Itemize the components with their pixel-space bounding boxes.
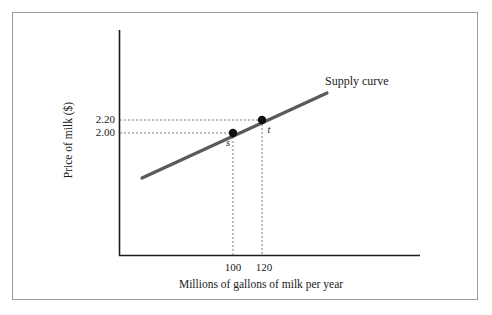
x-tick-label-120: 120 — [256, 261, 273, 273]
data-point-s — [229, 129, 237, 137]
x-tick-label-100: 100 — [225, 261, 242, 273]
y-tick-label-220: 2.20 — [96, 113, 116, 125]
x-axis-title: Millions of gallons of milk per year — [179, 278, 343, 291]
data-point-label-s: s — [226, 137, 230, 148]
supply-curve-chart: s t 2.20 2.00 100 120 Supply curve Milli… — [0, 0, 492, 315]
figure-root: s t 2.20 2.00 100 120 Supply curve Milli… — [0, 0, 492, 315]
y-axis-title: Price of milk ($) — [62, 102, 75, 178]
y-tick-label-200: 2.00 — [96, 126, 116, 138]
data-point-t — [258, 116, 266, 124]
data-point-label-t: t — [268, 124, 272, 135]
supply-curve-label: Supply curve — [325, 74, 389, 88]
